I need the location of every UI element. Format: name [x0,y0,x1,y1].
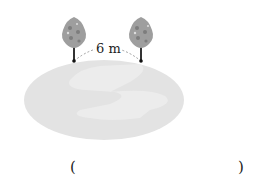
scene-svg [0,0,256,188]
right-tree-icon [129,17,153,63]
diagram: 6 m ( ) [0,0,256,188]
answer-open-paren: ( [70,158,76,176]
answer-close-paren: ) [238,158,244,176]
left-tree-icon [62,17,86,63]
distance-label: 6 m [95,42,122,56]
